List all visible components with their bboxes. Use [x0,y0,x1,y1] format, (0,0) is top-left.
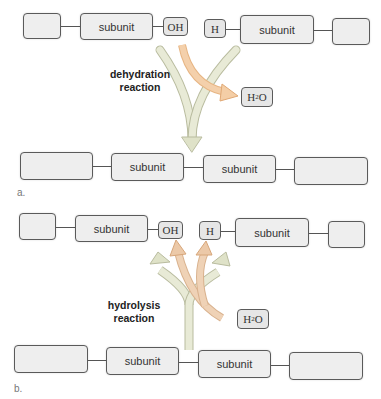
hydrogen-atom: H [204,19,226,38]
bond-line [271,365,289,366]
blank-subunit-box [20,152,93,180]
blank-subunit-box [23,13,61,39]
water-h: H [243,313,251,325]
water-molecule: H2O [237,309,269,329]
bond-line [226,29,240,30]
bond-line [148,229,158,230]
blank-subunit-box [19,213,56,240]
water-h: H [247,91,255,103]
subunit-box: subunit [235,218,309,247]
dehydration-label: dehydration reaction [100,68,180,94]
panel-b-letter: b. [14,383,22,394]
label-line: hydrolysis [94,299,174,312]
subunit-box: subunit [203,155,276,183]
label-line: reaction [100,81,180,94]
water-o: O [259,91,267,103]
label-line: reaction [94,312,174,325]
bond-line [309,233,328,234]
blank-subunit-box [328,221,365,248]
blank-subunit-box [14,345,88,373]
subunit-box: subunit [111,153,184,181]
blank-subunit-box [294,157,368,185]
diagram: subunit OH H subunit dehydration reactio… [0,0,381,399]
blank-subunit-box [332,18,370,45]
subunit-box: subunit [198,350,271,378]
subunit-box: subunit [80,13,153,40]
blank-subunit-box [289,352,363,380]
bond-line [221,231,235,232]
label-line: dehydration [100,68,180,81]
bond-line [314,30,332,31]
bond-line [179,362,198,363]
bond-line [56,227,75,228]
water-molecule: H2O [241,87,273,107]
hydrolysis-label: hydrolysis reaction [94,299,174,325]
hydrogen-atom: H [199,221,221,240]
hydroxyl-group: OH [163,17,188,36]
dehydration-converge-arrow [160,50,236,152]
water-o: O [255,313,263,325]
bond-line [93,166,111,167]
bond-line [184,167,203,168]
subunit-box: subunit [106,347,179,375]
reaction-arrows [0,0,381,399]
subunit-box: subunit [240,15,314,44]
bond-line [276,169,294,170]
hydroxyl-group: OH [158,221,183,239]
subunit-box: subunit [75,215,148,242]
bond-line [61,26,80,27]
bond-line [153,26,163,27]
panel-a-letter: a. [17,187,25,198]
bond-line [88,360,106,361]
